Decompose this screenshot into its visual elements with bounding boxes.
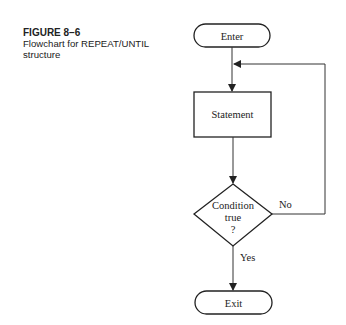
exit-label: Exit (225, 298, 243, 309)
condition-label-line2: true (225, 212, 242, 223)
condition-node: Condition true ? (194, 184, 272, 246)
edge-label-yes: Yes (240, 252, 255, 263)
condition-label-line1: Condition (212, 200, 255, 211)
condition-label-line3: ? (231, 224, 236, 235)
statement-node: Statement (194, 92, 271, 137)
edge-label-no: No (279, 199, 292, 210)
enter-node: Enter (194, 24, 270, 47)
enter-label: Enter (221, 31, 244, 42)
exit-node: Exit (195, 291, 272, 314)
flowchart: Enter Statement Condition true ? No Yes … (0, 0, 346, 325)
edge-no-loop-back (272, 64, 325, 214)
statement-label: Statement (212, 109, 254, 120)
